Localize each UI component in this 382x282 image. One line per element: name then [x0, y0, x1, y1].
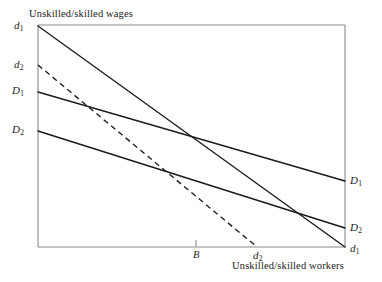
figure-canvas: Unskilled/skilled wages Unskilled/skille… — [0, 0, 382, 282]
left-label-D2-base: D — [12, 123, 20, 135]
right-label-d1-sub: 1 — [356, 247, 360, 256]
left-label-D1-sub: 1 — [20, 89, 24, 98]
right-label-D2-base: D — [350, 221, 358, 233]
left-label-d1-base: d — [14, 19, 20, 31]
right-label-D1-base: D — [350, 174, 358, 186]
left-label-d1-sub: 1 — [20, 24, 24, 33]
x-tick-label-B: B — [193, 250, 199, 261]
x-axis-title: Unskilled/skilled workers — [232, 261, 344, 272]
left-label-D2: D2 — [12, 124, 24, 135]
plot-area — [0, 0, 382, 282]
bottom-label-d2-base: d — [253, 249, 259, 261]
right-label-D1: D1 — [350, 175, 362, 186]
left-label-D2-sub: 2 — [20, 128, 24, 137]
right-label-D1-sub: 1 — [358, 179, 362, 188]
bottom-label-d2-sub: 2 — [259, 254, 263, 263]
y-axis-title: Unskilled/skilled wages — [29, 9, 133, 20]
right-label-D2-sub: 2 — [358, 226, 362, 235]
left-label-d1: d1 — [14, 20, 23, 31]
curve-d2 — [38, 65, 257, 247]
left-label-D1-base: D — [12, 84, 20, 96]
left-label-D1: D1 — [12, 85, 24, 96]
right-label-D2: D2 — [350, 222, 362, 233]
bottom-label-d2: d2 — [253, 250, 262, 261]
right-label-d1: d1 — [350, 243, 359, 254]
curve-D1 — [38, 92, 345, 181]
curve-D2 — [38, 131, 345, 228]
left-label-d2-sub: 2 — [20, 63, 24, 72]
right-label-d1-base: d — [350, 242, 356, 254]
left-label-d2: d2 — [14, 59, 23, 70]
left-label-d2-base: d — [14, 58, 20, 70]
